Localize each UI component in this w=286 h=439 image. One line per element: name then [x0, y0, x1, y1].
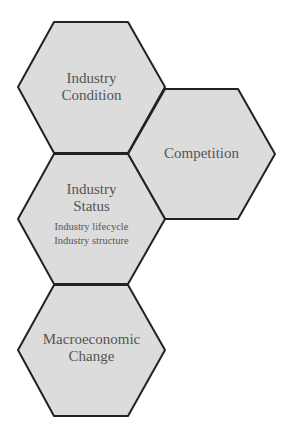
- node-title-line: Industry: [18, 181, 165, 198]
- node-subitems: Industry lifecycle Industry structure: [18, 220, 165, 248]
- node-title-line: Macroeconomic: [18, 331, 165, 348]
- node-industry-condition: Industry Condition: [18, 70, 165, 105]
- node-macroeconomic-change: Macroeconomic Change: [18, 331, 165, 366]
- node-title-line: Competition: [128, 145, 275, 162]
- node-competition: Competition: [128, 145, 275, 162]
- node-industry-status: Industry Status Industry lifecycle Indus…: [18, 181, 165, 248]
- subitem-industry-lifecycle: Industry lifecycle: [18, 220, 165, 234]
- node-title-line: Condition: [18, 87, 165, 104]
- node-title-line: Industry: [18, 70, 165, 87]
- node-title-line: Status: [18, 198, 165, 215]
- subitem-industry-structure: Industry structure: [18, 234, 165, 248]
- node-title-line: Change: [18, 348, 165, 365]
